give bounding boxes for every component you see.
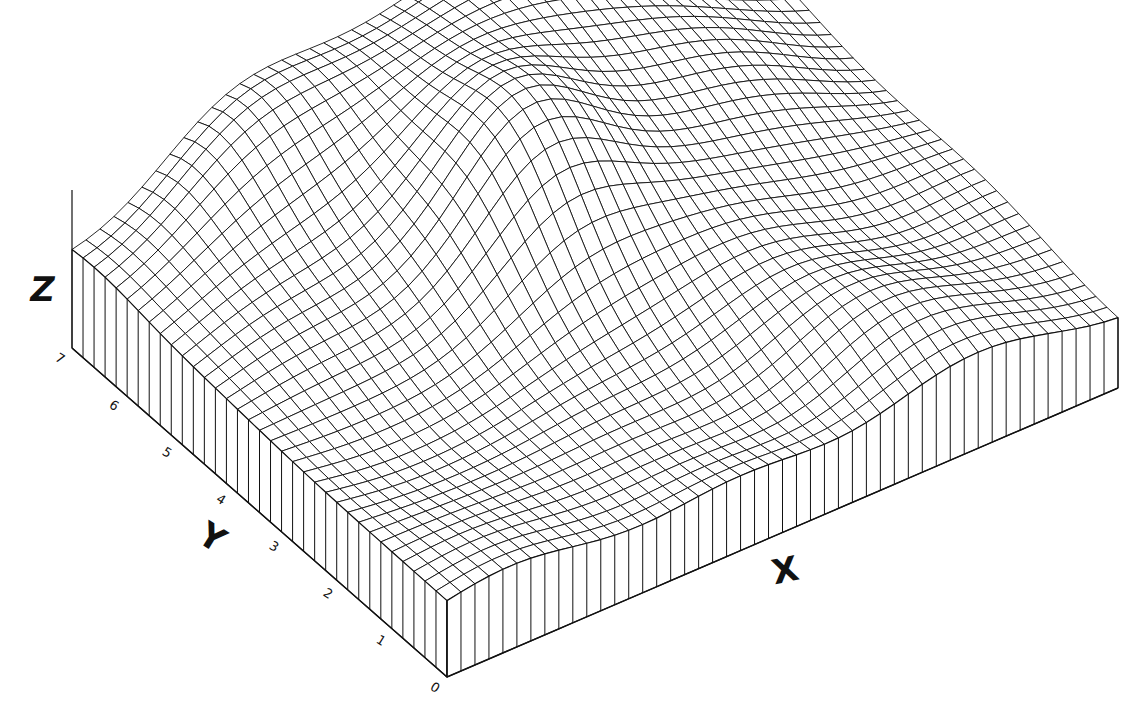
surface-plot: [0, 0, 1146, 709]
surface-wireframe-mesh: [72, 0, 1118, 601]
